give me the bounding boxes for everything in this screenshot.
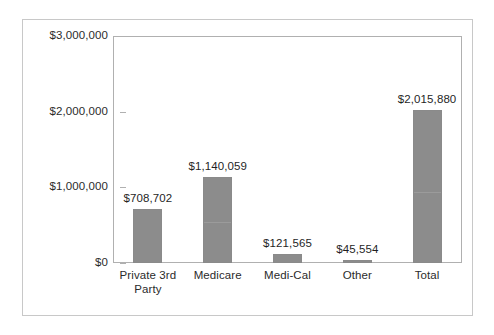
bar-value-label: $45,554 [307,243,407,255]
bar-value-label: $2,015,880 [377,93,477,105]
bar-value-label: $1,140,059 [168,160,268,172]
x-tick-label: Medi-Cal [253,268,323,282]
plot-area [113,36,462,263]
y-tick-label: $1,000,000 [16,181,108,192]
y-tick-label: $2,000,000 [16,106,108,117]
bar-other[interactable] [343,260,372,263]
bar-chart: $0$1,000,000$2,000,000$3,000,000 Private… [0,0,494,335]
bar-total[interactable] [413,110,442,263]
bar-medi-cal[interactable] [273,254,302,263]
bar-medicare[interactable] [203,177,232,263]
chart-screenshot: $0$1,000,000$2,000,000$3,000,000 Private… [0,0,494,335]
y-tick-mark [120,263,126,264]
y-tick-label: $3,000,000 [16,30,108,41]
x-tick-label: Medicare [183,268,253,282]
x-tick-label: Total [392,268,462,282]
bar-seam [414,192,441,193]
bar-private-3rd-party[interactable] [133,209,162,263]
bar-value-label: $708,702 [98,192,198,204]
y-tick-label: $0 [16,257,108,268]
y-axis: $0$1,000,000$2,000,000$3,000,000 [13,36,108,263]
bar-seam [204,222,231,223]
x-tick-label: Other [322,268,392,282]
x-tick-label: Private 3rd Party [113,268,183,296]
